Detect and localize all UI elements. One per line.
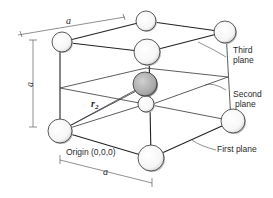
third-plane-label-line2: plane [233, 55, 254, 65]
third-plane-label-line1: Third [233, 45, 253, 55]
lattice-constant-side-label: a [24, 82, 35, 87]
bcc-crystal-diagram: a a a r2 Origin (0,0,0) Third plane Seco… [0, 0, 273, 198]
lattice-constant-top-label: a [66, 15, 71, 26]
atom-bottom-right [221, 109, 246, 134]
r2-vector-label: r2 [91, 98, 99, 111]
dimension-lines [18, 14, 152, 187]
atom-origin [48, 119, 73, 144]
atom-bottom-front [138, 145, 165, 172]
atom-top-front [134, 39, 161, 66]
second-plane-label-line2: plane [235, 99, 256, 109]
first-plane-label: First plane [217, 144, 257, 154]
second-plane-label-line1: Second [233, 89, 262, 99]
lattice-constant-bottom-label: a [103, 166, 108, 177]
origin-label: Origin (0,0,0) [66, 147, 116, 157]
atom-top-back [136, 11, 157, 32]
atom-body-center [133, 72, 158, 97]
atom-top-right [214, 21, 237, 44]
atom-below-center [138, 96, 155, 113]
atom-top-left-back [52, 32, 73, 53]
plane-leaders [192, 42, 226, 150]
